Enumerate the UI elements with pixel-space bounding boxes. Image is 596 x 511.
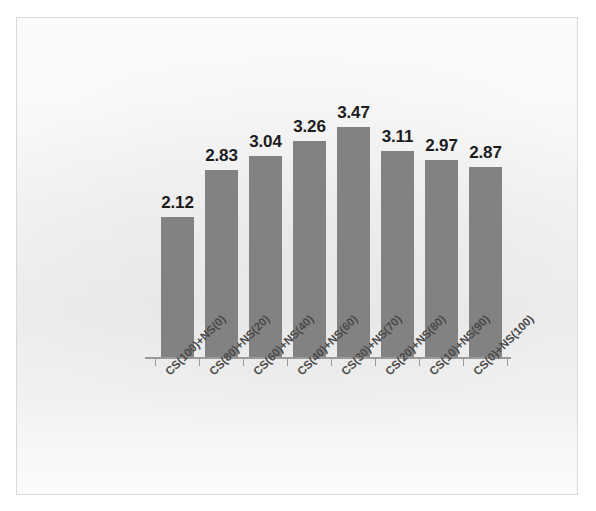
x-axis-tick	[155, 359, 156, 366]
scanned-figure-page: 2.122.833.043.263.473.112.972.87 CS(100)…	[0, 0, 596, 511]
figure-frame: 2.122.833.043.263.473.112.972.87 CS(100)…	[16, 17, 578, 495]
bar-value-label: 3.47	[333, 103, 375, 123]
bar-chart-plot-area: 2.122.833.043.263.473.112.972.87 CS(100)…	[17, 18, 577, 494]
x-axis-tick	[463, 359, 464, 366]
x-axis-tick	[419, 359, 420, 366]
bar	[161, 217, 194, 357]
x-axis-tick	[507, 359, 508, 366]
bar-value-label: 2.83	[201, 146, 243, 166]
bar-value-label: 3.26	[289, 117, 331, 137]
x-axis-tick	[199, 359, 200, 366]
bar-value-label: 3.04	[245, 132, 287, 152]
bar-value-label: 2.97	[421, 136, 463, 156]
bar-value-label: 2.87	[465, 143, 507, 163]
x-axis-tick	[331, 359, 332, 366]
bar-value-label: 3.11	[377, 127, 419, 147]
bar-value-label: 2.12	[157, 193, 199, 213]
x-axis-tick	[375, 359, 376, 366]
x-axis-tick	[287, 359, 288, 366]
x-axis-tick	[243, 359, 244, 366]
